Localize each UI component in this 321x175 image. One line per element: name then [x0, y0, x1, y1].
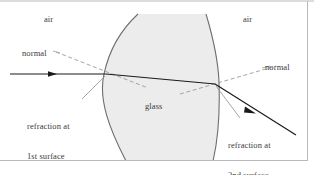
label-refraction-first-surface: refraction at 1st surface: [27, 101, 70, 175]
label-refraction-second-surface: refraction at 2nd surface: [228, 120, 271, 175]
label-normal-right: normal: [265, 62, 290, 72]
label-refraction-second-line1: refraction at: [228, 140, 271, 150]
label-refraction-first-line1: refraction at: [27, 121, 70, 131]
label-air-left: air: [44, 14, 53, 24]
label-air-right: air: [243, 14, 252, 24]
label-normal-left: normal: [22, 48, 47, 58]
refraction-diagram: air air glass normal normal refraction a…: [0, 0, 321, 175]
label-glass: glass: [145, 101, 163, 111]
label-refraction-second-line2: 2nd surface: [228, 170, 271, 175]
label-refraction-first-line2: 1st surface: [27, 151, 70, 161]
